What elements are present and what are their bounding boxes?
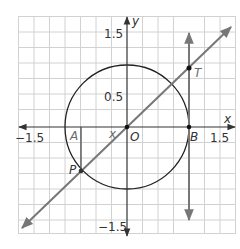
y-tick-1-5: 1.5 (104, 27, 123, 41)
x-axis-label: x (223, 112, 232, 126)
point-b (187, 125, 192, 130)
label-t: T (194, 66, 203, 80)
label-b: B (190, 130, 198, 144)
point-p (79, 169, 84, 174)
label-a: A (69, 129, 78, 143)
y-axis-label: y (131, 14, 140, 28)
point-t (187, 66, 192, 71)
x-tick-1-5: 1.5 (210, 131, 229, 145)
angle-label-x: x (108, 127, 117, 141)
point-o (125, 125, 130, 130)
x-tick-neg-1-5: −1.5 (15, 131, 44, 145)
unit-circle-diagram: 1.5 0.5 −1.5 −1.5 1.5 y x A x O B P T (0, 0, 240, 249)
y-tick-neg-1-5: −1.5 (98, 220, 127, 234)
label-p: P (69, 163, 77, 177)
y-tick-0-5: 0.5 (104, 90, 123, 104)
label-o: O (130, 130, 139, 144)
